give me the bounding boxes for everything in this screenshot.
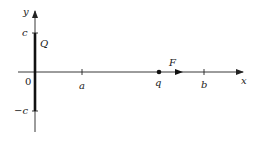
tick-a-label: a xyxy=(79,80,85,91)
rod-charge-label: Q xyxy=(40,38,48,49)
y-axis-label: y xyxy=(22,6,29,17)
point-charge-dot xyxy=(157,70,162,75)
force-arrow-icon xyxy=(175,69,183,75)
rod-top-label: c xyxy=(22,27,28,38)
point-charge-label: q xyxy=(155,77,161,88)
diagram-canvas: y c Q 0 a q F b x −c xyxy=(0,0,262,141)
force-label: F xyxy=(168,57,177,68)
origin-label: 0 xyxy=(25,76,31,87)
tick-b-label: b xyxy=(201,79,207,90)
x-axis-label: x xyxy=(241,75,247,86)
rod-bottom-label: −c xyxy=(14,105,28,116)
